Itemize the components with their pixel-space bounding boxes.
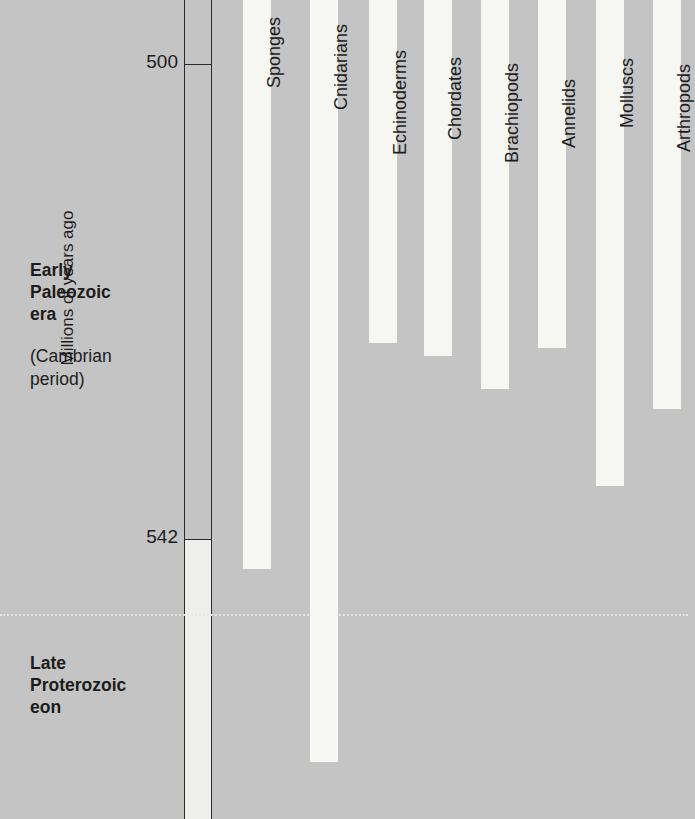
range-bar-label-sponges: Sponges — [264, 17, 285, 88]
axis-tick-label-500: 500 — [108, 51, 178, 73]
period-boundary-line — [0, 614, 688, 616]
era-label-early-paleozoic: Early Paleozoic era (Cambrian period) — [30, 239, 180, 410]
range-bar-arthropods — [653, 0, 681, 409]
era-title-late-proterozoic: Late Proterozoic eon — [30, 652, 180, 718]
range-bar-label-echinoderms: Echinoderms — [390, 50, 411, 155]
era-label-late-proterozoic: Late Proterozoic eon — [30, 632, 180, 738]
range-bar-label-cnidarians: Cnidarians — [331, 24, 352, 110]
axis-tick-542 — [184, 539, 212, 540]
era-title-early-paleozoic: Early Paleozoic era — [30, 259, 180, 325]
range-bar-annelids — [538, 0, 566, 348]
range-bar-label-arthropods: Arthropods — [674, 64, 695, 152]
axis-caption-millions-of-years-ago: Millions of years ago — [58, 158, 78, 418]
range-bar-brachiopods — [481, 0, 509, 389]
axis-tick-label-542: 542 — [108, 526, 178, 548]
era-subtitle-early-paleozoic: (Cambrian period) — [30, 345, 180, 389]
range-bar-label-brachiopods: Brachiopods — [502, 63, 523, 163]
axis-line-right — [211, 0, 212, 819]
range-bar-label-chordates: Chordates — [445, 57, 466, 140]
range-bar-cnidarians — [310, 0, 338, 762]
axis-line-left — [184, 0, 185, 819]
range-bar-label-molluscs: Molluscs — [617, 58, 638, 128]
range-bar-label-annelids: Annelids — [559, 79, 580, 148]
axis-tick-500 — [184, 64, 212, 65]
axis-proterozoic-fill — [185, 539, 211, 819]
range-bar-chordates — [424, 0, 452, 356]
